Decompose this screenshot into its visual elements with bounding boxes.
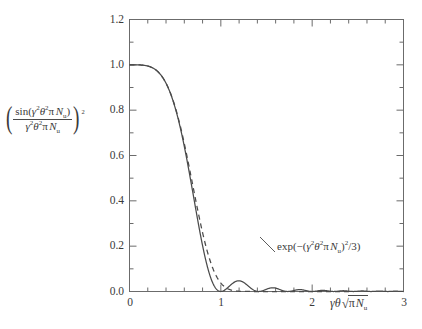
annotation-leader-line [260,237,275,252]
numerator-N: N [56,105,63,117]
radicand-N-subscript: u [364,304,368,312]
y-label-numerator: sin(γ2θ2πNu) [13,106,72,118]
denominator-N: N [49,120,56,132]
radicand-pi: π [349,296,355,310]
y-label-denominator: γ2θ2πNu [23,121,62,133]
curve-annotation-gaussian: exp(−(γ2θ2πNu)2/3) [277,240,361,252]
x-tick-label-3: 3 [394,296,414,308]
y-label-close-paren: ) [73,104,79,133]
y-tick-label-1.2: 1.2 [92,13,124,25]
annotation-pi: π [323,240,329,252]
figure-container: 1.2 1.0 0.8 0.6 0.4 0.2 0.0 0 1 2 3 ( si… [0,0,422,329]
x-tick-label-0: 0 [120,296,140,308]
series-sinc-squared [130,65,404,292]
axes-frame [129,19,404,292]
x-tick-label-1: 1 [211,296,231,308]
y-tick-label-1.0: 1.0 [92,58,124,70]
x-axis-label: γθ√πNu [330,295,368,311]
y-right-ticks [397,42,404,291]
xlabel-sqrt: √πNu [341,295,369,311]
annotation-exp: exp( [277,240,297,252]
denominator-pi: π [42,120,48,132]
annotation-N: N [330,240,337,252]
annotation-divide-three: /3) [348,240,360,252]
y-major-ticks [130,20,137,292]
x-top-ticks [148,20,385,27]
denominator-N-subscript: u [57,127,61,135]
xlabel-radicand: πNu [348,295,369,311]
y-label-open-paren: ( [6,104,12,133]
radicand-N: N [356,296,364,310]
numerator-pi: π [49,105,55,117]
y-tick-label-0.6: 0.6 [92,149,124,161]
y-label-outer-exponent: 2 [81,109,84,116]
numerator-sin: sin( [15,105,32,117]
y-tick-label-0.4: 0.4 [92,194,124,206]
y-axis-label: ( sin(γ2θ2πNu) γ2θ2πNu ) 2 [4,105,124,134]
numerator-close: ) [66,105,70,117]
plot-canvas [0,0,422,329]
y-label-fraction: sin(γ2θ2πNu) γ2θ2πNu [13,106,72,132]
x-tick-label-2: 2 [302,296,322,308]
series-gaussian-approximation [130,65,354,292]
y-tick-label-0.2: 0.2 [92,239,124,251]
